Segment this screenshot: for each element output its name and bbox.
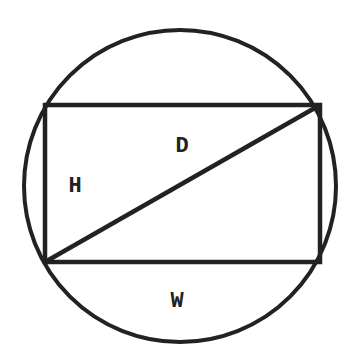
width-label: W — [170, 289, 184, 314]
inscribed-rectangle-diagram: D H W — [0, 0, 353, 353]
height-label: H — [68, 174, 81, 199]
diagonal-label: D — [175, 134, 188, 159]
diagonal-line — [45, 105, 320, 262]
